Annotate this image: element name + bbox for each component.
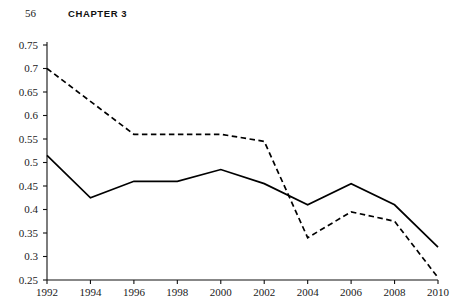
y-tick-label: 0.7 bbox=[2, 63, 38, 74]
y-tick-label: 0.25 bbox=[2, 275, 38, 286]
x-tick-label: 2002 bbox=[244, 287, 284, 298]
y-tick-label: 0.65 bbox=[2, 87, 38, 98]
chart-canvas bbox=[0, 28, 463, 288]
x-tick-label: 1994 bbox=[70, 287, 110, 298]
x-tick-label: 2008 bbox=[375, 287, 415, 298]
x-tick-label: 1992 bbox=[27, 287, 67, 298]
y-tick-label: 0.6 bbox=[2, 110, 38, 121]
x-axis-ticks bbox=[47, 280, 438, 284]
x-tick-label: 1998 bbox=[157, 287, 197, 298]
chapter-heading: CHAPTER 3 bbox=[68, 7, 127, 20]
series-line-dashed bbox=[47, 69, 438, 278]
x-tick-label: 2000 bbox=[201, 287, 241, 298]
y-tick-label: 0.4 bbox=[2, 204, 38, 215]
plot-area: 0.750.70.650.60.550.50.450.40.350.30.25 … bbox=[0, 28, 463, 288]
y-tick-label: 0.45 bbox=[2, 181, 38, 192]
page-number: 56 bbox=[25, 6, 36, 20]
x-tick-label: 2004 bbox=[288, 287, 328, 298]
y-tick-label: 0.3 bbox=[2, 251, 38, 262]
x-tick-label: 2010 bbox=[418, 287, 458, 298]
x-tick-label: 2006 bbox=[331, 287, 371, 298]
y-tick-label: 0.55 bbox=[2, 134, 38, 145]
y-tick-label: 0.75 bbox=[2, 40, 38, 51]
line-chart-figure: 0.750.70.650.60.550.50.450.40.350.30.25 … bbox=[0, 28, 463, 306]
y-tick-label: 0.35 bbox=[2, 228, 38, 239]
x-tick-label: 1996 bbox=[114, 287, 154, 298]
y-tick-label: 0.5 bbox=[2, 157, 38, 168]
running-header: 56 CHAPTER 3 bbox=[0, 6, 463, 24]
series-line-solid bbox=[47, 155, 438, 247]
y-axis-ticks bbox=[43, 45, 47, 280]
